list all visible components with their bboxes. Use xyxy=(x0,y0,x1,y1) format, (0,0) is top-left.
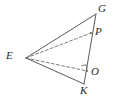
vertex-dot-O xyxy=(86,70,88,72)
solid-edges xyxy=(26,14,96,84)
vertex-label-K: K xyxy=(80,85,87,96)
geometry-canvas xyxy=(0,0,114,108)
segment-K-E xyxy=(26,58,84,84)
vertex-dot-P xyxy=(90,32,92,34)
vertex-label-E: E xyxy=(6,50,13,61)
geometry-figure: G P O K E xyxy=(0,0,114,108)
vertex-label-P: P xyxy=(95,26,102,37)
segment-E-P xyxy=(26,33,91,58)
segment-E-O xyxy=(26,58,87,71)
vertex-label-O: O xyxy=(91,66,99,77)
segment-E-G xyxy=(26,14,96,58)
vertex-label-G: G xyxy=(98,3,106,14)
